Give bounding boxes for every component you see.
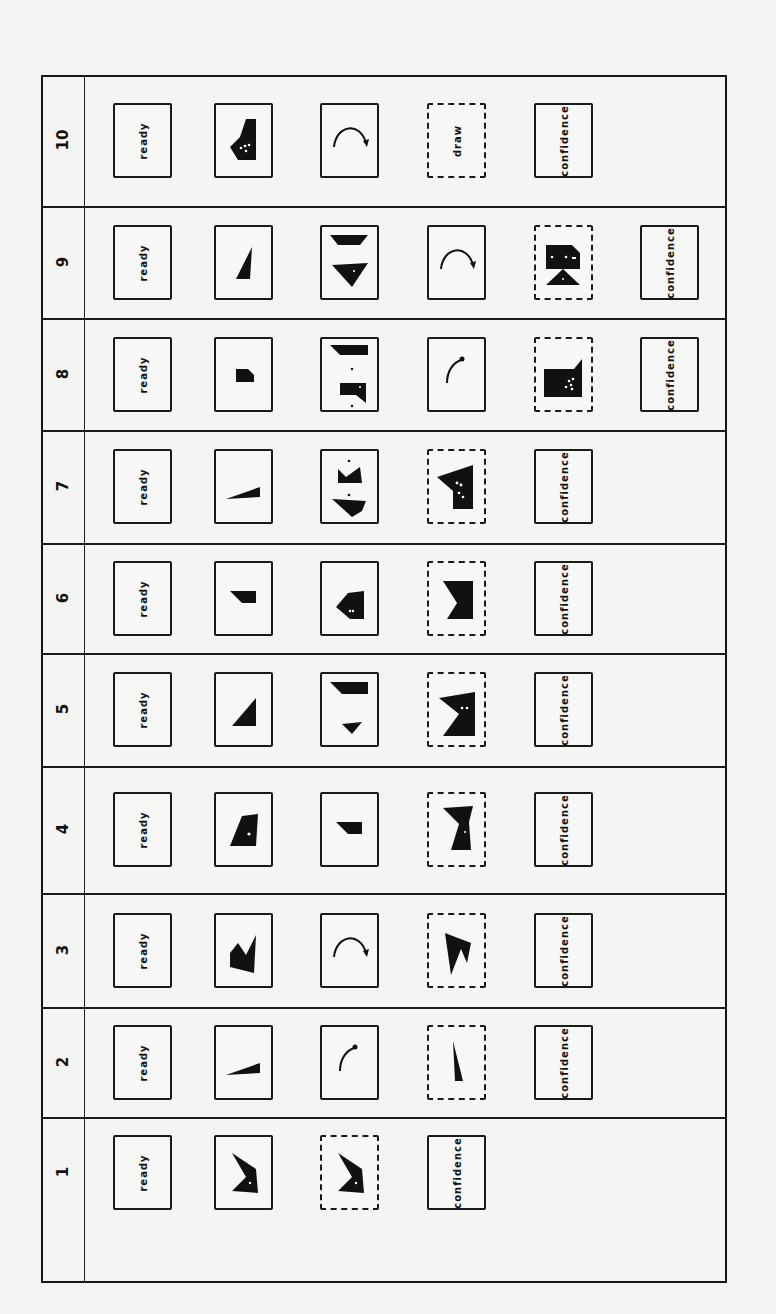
ready-label: ready <box>137 244 148 281</box>
stimulus-card <box>320 792 379 867</box>
stimulus-card <box>214 337 273 412</box>
confidence-card: confidence <box>427 1135 486 1210</box>
row-divider <box>41 653 727 655</box>
stimulus-card <box>427 561 486 636</box>
trial-number-label: 8 <box>43 365 83 383</box>
ready-card: ready <box>113 1025 172 1100</box>
trial-number-text: 5 <box>54 703 72 713</box>
arc-arrow-large-icon <box>429 227 484 298</box>
confidence-label: confidence <box>558 563 569 634</box>
stimulus-card <box>320 1025 379 1100</box>
stimulus-card <box>214 1135 273 1210</box>
stimulus-card <box>214 792 273 867</box>
bar-and-chevron-icon <box>322 674 377 745</box>
two-trapezoids-icon <box>322 227 377 298</box>
trial-number-label: 5 <box>43 700 83 718</box>
row-divider <box>41 1117 727 1119</box>
confidence-card: confidence <box>534 103 593 178</box>
confidence-card: confidence <box>534 449 593 524</box>
stimulus-card <box>320 672 379 747</box>
confidence-card: confidence <box>640 337 699 412</box>
arc-arrow-large-icon <box>322 915 377 986</box>
confidence-card: confidence <box>640 225 699 300</box>
ready-label: ready <box>137 1154 148 1191</box>
trial-number-text: 8 <box>54 368 72 378</box>
ready-label: ready <box>137 580 148 617</box>
row-divider <box>41 893 727 895</box>
ready-label: ready <box>137 811 148 848</box>
confidence-label: confidence <box>664 227 675 298</box>
ready-label: ready <box>137 122 148 159</box>
row-divider <box>41 1007 727 1009</box>
trial-number-text: 7 <box>54 480 72 490</box>
hourglass-half-icon <box>429 794 484 865</box>
small-wedge-icon <box>216 563 271 634</box>
ready-card: ready <box>113 1135 172 1210</box>
ready-card: ready <box>113 449 172 524</box>
confidence-card: confidence <box>534 1025 593 1100</box>
row-divider <box>41 206 727 208</box>
row-divider <box>41 543 727 545</box>
trial-number-label: 6 <box>43 589 83 607</box>
arc-arrow-small-icon <box>429 339 484 410</box>
notched-block-icon <box>429 563 484 634</box>
ready-label: ready <box>137 356 148 393</box>
draw-label: draw <box>451 124 462 156</box>
ready-label: ready <box>137 1044 148 1081</box>
stimulus-card <box>427 449 486 524</box>
confidence-label: confidence <box>558 915 569 986</box>
stimulus-card <box>427 1025 486 1100</box>
thin-wedge-icon <box>216 1027 271 1098</box>
two-blocks-dots-icon <box>322 339 377 410</box>
notched-block-dots-icon <box>429 674 484 745</box>
trial-number-label: 3 <box>43 941 83 959</box>
stimulus-card <box>214 913 273 988</box>
stimulus-card <box>320 1135 379 1210</box>
confidence-label: confidence <box>558 1027 569 1098</box>
trial-number-label: 4 <box>43 820 83 838</box>
stimulus-card <box>534 337 593 412</box>
trial-number-text: 4 <box>54 823 72 833</box>
large-block-dots-icon <box>536 339 591 410</box>
confidence-card: confidence <box>534 913 593 988</box>
trapezoid-dot-icon <box>216 794 271 865</box>
notched-polygon-dots-icon <box>216 105 271 176</box>
trial-number-text: 6 <box>54 592 72 602</box>
row-divider <box>41 766 727 768</box>
arc-arrow-large-icon <box>322 105 377 176</box>
ready-label: ready <box>137 468 148 505</box>
trial-number-text: 9 <box>54 256 72 266</box>
right-triangle-icon <box>216 674 271 745</box>
stimulus-card <box>320 337 379 412</box>
ready-card: ready <box>113 913 172 988</box>
confidence-label: confidence <box>558 794 569 865</box>
stimulus-card <box>320 449 379 524</box>
stimulus-card <box>427 225 486 300</box>
stimulus-card <box>214 561 273 636</box>
trial-number-text: 1 <box>54 1166 72 1176</box>
confidence-card: confidence <box>534 672 593 747</box>
stimulus-card <box>427 913 486 988</box>
m-shape-icon <box>216 915 271 986</box>
confidence-label: confidence <box>451 1137 462 1208</box>
confidence-label: confidence <box>558 674 569 745</box>
draw-card: draw <box>427 103 486 178</box>
label-column-separator <box>84 75 85 1283</box>
stimulus-card <box>320 103 379 178</box>
chevron-block-icon <box>322 1137 377 1208</box>
arrow-pentagon-icon <box>322 563 377 634</box>
ready-card: ready <box>113 337 172 412</box>
trial-number-text: 3 <box>54 944 72 954</box>
stimulus-card <box>320 561 379 636</box>
ready-label: ready <box>137 932 148 969</box>
confidence-card: confidence <box>534 561 593 636</box>
confidence-label: confidence <box>664 339 675 410</box>
row-divider <box>41 318 727 320</box>
trial-number-text: 2 <box>54 1056 72 1066</box>
chevron-block-icon <box>216 1137 271 1208</box>
ready-card: ready <box>113 225 172 300</box>
trial-number-label: 9 <box>43 253 83 271</box>
small-wedge-icon <box>322 794 377 865</box>
stimulus-card <box>214 103 273 178</box>
ready-card: ready <box>113 672 172 747</box>
